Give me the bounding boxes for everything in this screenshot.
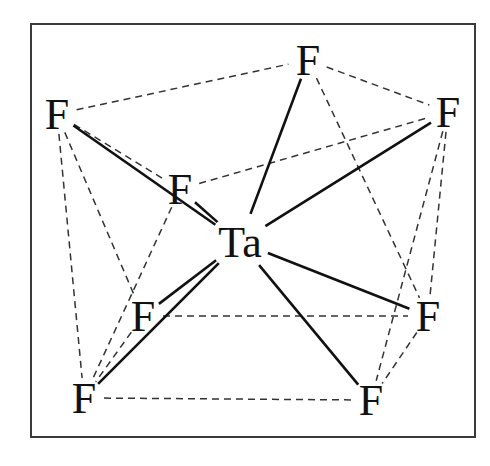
edge-f1-f6: [317, 78, 420, 298]
taf8-diagram: Ta F F F F F F F F: [0, 0, 490, 466]
edge-f2-f6: [430, 132, 446, 296]
atom-f7: F: [72, 374, 96, 423]
atom-f8: F: [359, 376, 383, 425]
bond-ta-f1: [251, 79, 302, 214]
atom-f4: F: [168, 165, 192, 214]
atom-f2: F: [436, 88, 460, 137]
edge-f4-f2: [199, 118, 429, 184]
edge-f3-f7: [59, 134, 82, 378]
edge-f3-f4: [74, 124, 163, 178]
edge-f3-f5: [65, 132, 135, 297]
edge-f7-f8: [104, 398, 351, 400]
atom-f3: F: [45, 90, 69, 139]
atom-f5: F: [131, 292, 155, 341]
edge-f3-f1: [77, 64, 289, 110]
edge-f1-f2: [327, 67, 430, 105]
atom-ta: Ta: [218, 218, 261, 267]
bond-ta-f3: [73, 126, 215, 225]
bond-ta-f5: [159, 260, 216, 304]
atom-f1: F: [296, 36, 320, 85]
atom-f6: F: [416, 292, 440, 341]
bond-ta-f7: [98, 263, 219, 384]
bond-ta-f2: [265, 123, 431, 227]
